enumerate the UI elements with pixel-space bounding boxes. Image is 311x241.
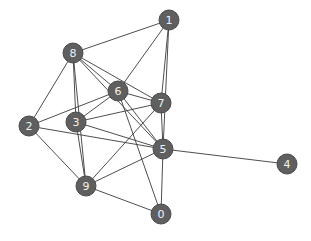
node-9: 9 xyxy=(76,176,96,196)
node-label: 1 xyxy=(166,14,173,27)
node-label: 3 xyxy=(73,116,80,129)
node-label: 0 xyxy=(158,208,165,221)
node-7: 7 xyxy=(151,93,171,113)
edge-9-5 xyxy=(86,149,163,186)
node-5: 5 xyxy=(153,139,173,159)
node-label: 9 xyxy=(83,180,90,193)
network-graph: 0123456789 xyxy=(0,0,311,241)
node-3: 3 xyxy=(66,112,86,132)
edge-2-9 xyxy=(29,126,86,186)
edge-1-6 xyxy=(118,20,169,91)
node-1: 1 xyxy=(159,10,179,30)
node-label: 6 xyxy=(115,85,122,98)
node-label: 4 xyxy=(284,158,291,171)
node-4: 4 xyxy=(277,154,297,174)
edge-1-5 xyxy=(163,20,169,149)
node-layer: 0123456789 xyxy=(19,10,297,224)
edge-2-5 xyxy=(29,126,163,149)
edge-5-4 xyxy=(163,149,287,164)
node-2: 2 xyxy=(19,116,39,136)
node-label: 7 xyxy=(158,97,165,110)
node-6: 6 xyxy=(108,81,128,101)
node-label: 8 xyxy=(70,47,77,60)
edge-8-1 xyxy=(73,20,169,53)
edge-1-7 xyxy=(161,20,169,103)
node-8: 8 xyxy=(63,43,83,63)
node-label: 2 xyxy=(26,120,33,133)
edge-8-2 xyxy=(29,53,73,126)
node-label: 5 xyxy=(160,143,167,156)
node-0: 0 xyxy=(151,204,171,224)
edge-9-0 xyxy=(86,186,161,214)
